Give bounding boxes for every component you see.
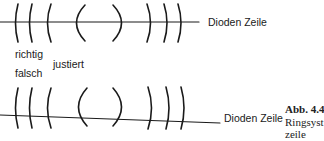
bottom-diode-line [0, 115, 220, 123]
figure-caption: Abb. 4.4 Ringsyst zeile [285, 103, 324, 141]
ring-arc [164, 4, 167, 42]
top-ring-diagram [0, 4, 199, 42]
ring-arc [181, 87, 184, 129]
bottom-ring-diagram [0, 87, 220, 129]
ring-arc [166, 87, 169, 129]
caption-line-1: Ringsyst [285, 116, 324, 128]
ring-arc [48, 88, 52, 128]
caption-line-2: zeile [285, 128, 306, 140]
ring-arc [79, 88, 88, 126]
state-label-richtig: richtig [15, 49, 43, 60]
ring-arc [148, 87, 152, 129]
state-label-justiert: justiert [53, 59, 84, 70]
ring-arc [48, 4, 52, 42]
ring-arc [30, 4, 33, 42]
figure-number: Abb. 4.4 [285, 103, 324, 115]
bottom-diode-line-label: Dioden Zeile [224, 113, 283, 124]
top-diode-line-label: Dioden Zeile [208, 17, 267, 28]
ring-arc [178, 4, 181, 42]
ring-arc [113, 88, 122, 126]
ring-arc [16, 4, 19, 42]
ring-arc [113, 5, 122, 41]
ring-arc [30, 88, 33, 128]
ring-arc [16, 88, 19, 128]
ring-arc [77, 5, 86, 41]
state-label-falsch: falsch [15, 68, 42, 79]
ring-arc [147, 4, 151, 42]
